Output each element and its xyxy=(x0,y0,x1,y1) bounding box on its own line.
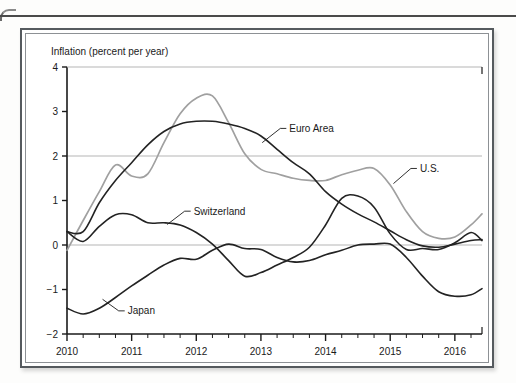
series-label-u-s: U.S. xyxy=(420,163,439,174)
figure-page: 43210−1−2 2010201120122013201420152016 E… xyxy=(0,0,516,383)
y-axis-tick-labels: 43210−1−2 xyxy=(47,62,59,340)
series-label-euro-area: Euro Area xyxy=(289,123,334,134)
series-annotations: Euro AreaU.S.SwitzerlandJapan xyxy=(128,123,440,316)
svg-text:2011: 2011 xyxy=(121,346,143,357)
svg-text:0: 0 xyxy=(52,240,58,251)
svg-text:4: 4 xyxy=(52,62,58,73)
svg-text:−2: −2 xyxy=(47,329,59,340)
series-label-japan: Japan xyxy=(128,305,155,316)
page-rule-artifact xyxy=(0,15,516,17)
chart-area: 43210−1−2 2010201120122013201420152016 E… xyxy=(26,34,488,362)
svg-text:2013: 2013 xyxy=(250,346,273,357)
svg-text:2015: 2015 xyxy=(379,346,402,357)
svg-text:−1: −1 xyxy=(47,284,59,295)
svg-text:2012: 2012 xyxy=(185,346,208,357)
axis-ticks-group xyxy=(62,67,471,341)
figure-inner-border: 43210−1−2 2010201120122013201420152016 E… xyxy=(25,33,489,363)
svg-text:2016: 2016 xyxy=(444,346,467,357)
y-axis-title: Inflation (percent per year) xyxy=(51,46,168,57)
svg-text:3: 3 xyxy=(52,106,58,117)
inflation-line-chart: 43210−1−2 2010201120122013201420152016 E… xyxy=(26,34,494,368)
axes-group xyxy=(67,67,482,334)
svg-text:2010: 2010 xyxy=(56,346,79,357)
x-axis-tick-labels: 2010201120122013201420152016 xyxy=(56,346,467,357)
svg-text:1: 1 xyxy=(52,195,58,206)
series-label-switzerland: Switzerland xyxy=(194,206,246,217)
figure-frame: 43210−1−2 2010201120122013201420152016 E… xyxy=(20,28,494,368)
data-series-group xyxy=(67,94,482,314)
svg-text:2014: 2014 xyxy=(314,346,337,357)
svg-text:2: 2 xyxy=(52,151,58,162)
